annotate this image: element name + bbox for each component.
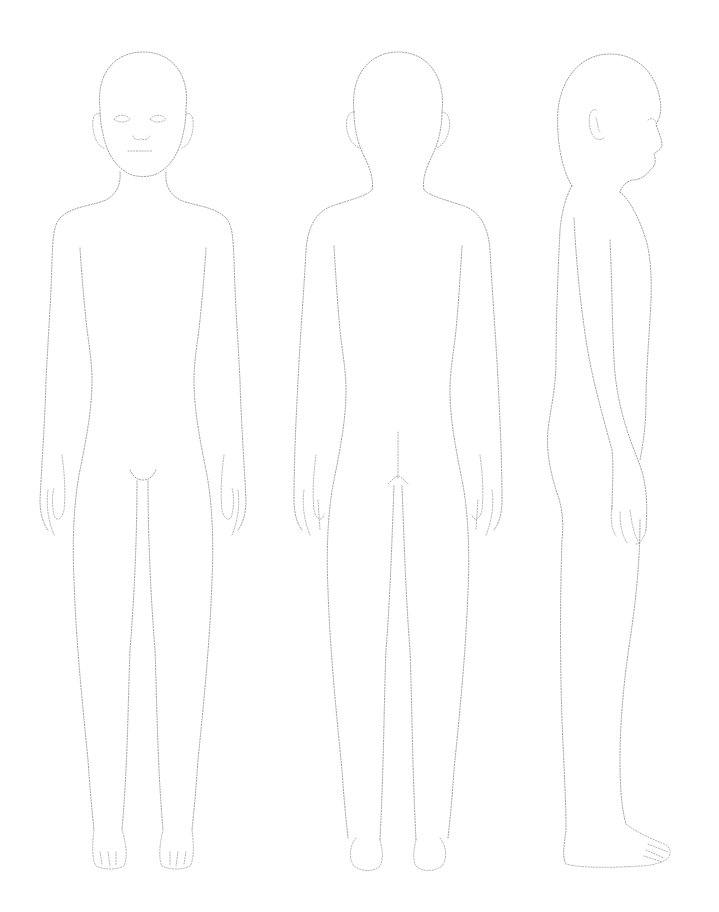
front-right-foot: [160, 830, 194, 869]
side-arm-front: [610, 240, 647, 530]
croquis-canvas: [0, 0, 719, 912]
front-nose: [133, 136, 150, 140]
side-back-outline: [547, 186, 572, 864]
front-head-outline: [99, 52, 186, 177]
front-left-ear: [93, 114, 104, 148]
side-arm-back: [574, 218, 613, 510]
front-torso-left: [73, 248, 94, 830]
side-view-figure: [547, 54, 670, 867]
front-inner-leg-left: [122, 481, 137, 830]
side-head-outline: [558, 54, 662, 192]
side-eye: [648, 119, 656, 122]
back-left-ear: [346, 112, 360, 148]
front-left-eye: [114, 115, 130, 122]
front-view-figure: [40, 52, 246, 869]
side-front-outline: [620, 192, 651, 460]
side-hand: [611, 506, 646, 544]
back-left-hand: [303, 455, 324, 535]
back-left-heel: [350, 838, 382, 871]
front-crotch: [130, 470, 156, 480]
front-body-outline-left: [40, 172, 120, 530]
back-right-heel: [414, 838, 446, 871]
front-right-eye: [150, 115, 166, 122]
side-ear: [589, 110, 604, 140]
front-right-hand: [221, 455, 239, 535]
back-torso-right: [448, 246, 469, 838]
front-inner-leg-right: [148, 481, 163, 830]
back-view-figure: [294, 52, 502, 871]
back-inner-leg-left: [380, 486, 394, 840]
back-inner-leg-right: [402, 486, 416, 840]
back-body-outline-right: [423, 156, 502, 530]
back-torso-left: [327, 246, 348, 838]
side-leg-front: [620, 520, 640, 824]
back-head-outline: [354, 52, 443, 156]
back-right-ear: [436, 112, 450, 148]
front-torso-right: [192, 248, 213, 830]
front-left-foot: [93, 830, 126, 869]
back-right-hand: [472, 455, 493, 535]
back-body-outline-left: [294, 156, 373, 530]
front-left-hand: [47, 455, 65, 535]
side-foot: [566, 824, 670, 867]
front-body-outline-right: [166, 172, 246, 530]
